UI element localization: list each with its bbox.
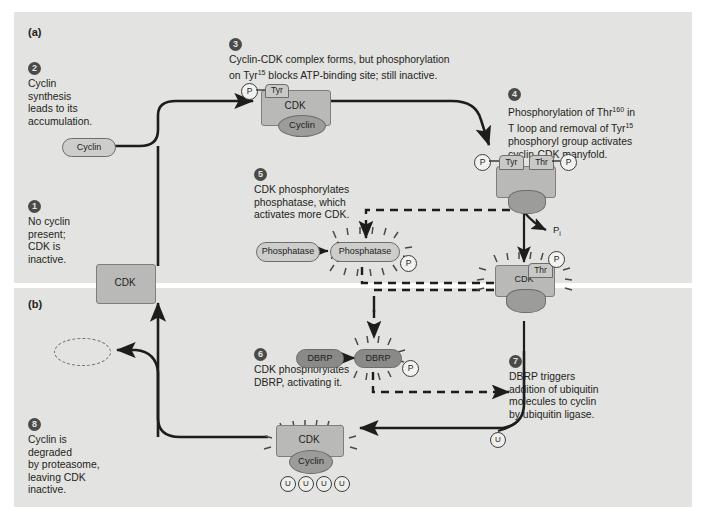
dbrp-active: DBRP (354, 349, 402, 368)
step-3-number: 3 (229, 38, 242, 51)
step-4-sup1: 160 (612, 106, 624, 113)
step-4-number: 4 (508, 88, 521, 101)
step-5-text: CDK phosphorylates phosphatase, which ac… (254, 184, 394, 222)
step-3-line1: Cyclin-CDK complex forms, but phosphoryl… (229, 54, 450, 65)
dbrp-inactive: DBRP (296, 349, 344, 368)
phosphate-tyr-inactive: P (241, 83, 258, 100)
step-8-number: 8 (28, 418, 41, 431)
step-3-line2b: blocks ATP-binding site; still inactive. (265, 70, 437, 81)
cyclin-ubiquitinated: Cyclin (289, 450, 333, 474)
step-4-line1b: in (624, 107, 635, 118)
phosphate-dbrp: P (402, 360, 419, 377)
degraded-cyclin-outline (54, 338, 111, 366)
cyclin-bound-active-upper (506, 289, 546, 313)
step-1-number: 1 (28, 200, 41, 213)
ubiquitin-chain-1: U (280, 476, 296, 492)
phosphate-thr-active-upper: P (548, 251, 565, 268)
phosphate-tyr-dual: P (474, 154, 491, 171)
panel-a-label: (a) (28, 26, 41, 38)
thr-residue-dual: Thr (529, 155, 554, 170)
step-6-number: 6 (254, 348, 267, 361)
cyclin-bound-dual (508, 190, 546, 214)
step-4-line1a: Phosphorylation of Thr (508, 107, 612, 118)
step-3-text: Cyclin-CDK complex forms, but phosphoryl… (229, 54, 529, 83)
pi-release-label: Pi (553, 224, 561, 237)
step-4-sup2: 15 (625, 122, 633, 129)
phosphate-thr-dual: P (560, 154, 577, 171)
step-4-line2a: T loop and removal of Tyr (508, 124, 625, 135)
tyr-residue-inactive: Tyr (265, 84, 289, 98)
step-7-number: 7 (509, 355, 522, 368)
phosphatase-inactive: Phosphatase (256, 242, 320, 262)
ubiquitin-incoming: U (490, 432, 506, 448)
ubiquitin-chain-4: U (334, 476, 350, 492)
panel-b-label: (b) (28, 298, 42, 310)
step-2-text: Cyclin synthesis leads to its accumulati… (28, 78, 138, 128)
step-4-text: Phosphorylation of Thr160 inT loop and r… (508, 104, 683, 161)
cdk-label-inactive: CDK (261, 100, 329, 111)
figure-canvas: (a) (b) 1 No cyclin present; CDK is inac… (0, 0, 706, 526)
cyclin-molecule-free: Cyclin (62, 138, 116, 157)
ubiquitin-chain-3: U (316, 476, 332, 492)
step-7-text: DBRP triggers addition of ubiquitin mole… (509, 371, 659, 421)
step-1-text: No cyclin present; CDK is inactive. (28, 216, 133, 266)
ubiquitin-chain-2: U (298, 476, 314, 492)
step-3-line2a: on Tyr (229, 70, 258, 81)
step-4-line3: phosphoryl group activates (508, 136, 632, 147)
cyclin-bound-inactive: Cyclin (278, 115, 326, 137)
cdk-label-ubiquitinated: CDK (276, 434, 342, 445)
pi-sub: i (559, 230, 561, 237)
step-8-text: Cyclin is degraded by proteasome, leavin… (28, 434, 143, 497)
phosphatase-active: Phosphatase (330, 242, 400, 262)
cdk-free-label: CDK (96, 277, 154, 288)
phosphate-phosphatase: P (400, 255, 417, 272)
step-5-number: 5 (254, 168, 267, 181)
tyr-residue-dual: Tyr (499, 155, 524, 170)
step-2-number: 2 (28, 62, 41, 75)
